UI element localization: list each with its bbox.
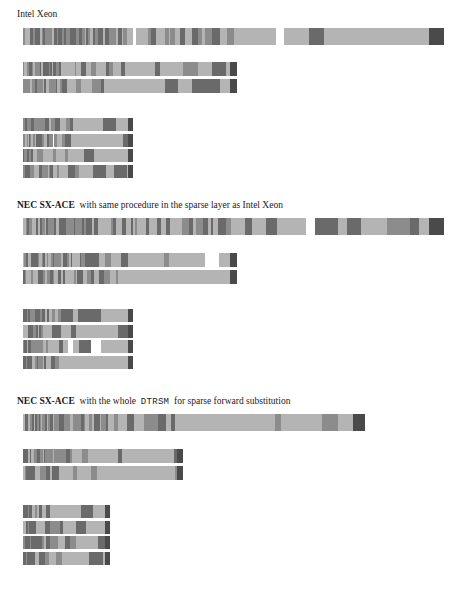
stripe-segment bbox=[117, 79, 124, 93]
stripe-segment bbox=[387, 218, 409, 235]
stripe-segment bbox=[128, 134, 133, 147]
stripe-segment bbox=[133, 62, 142, 76]
stripe-segment bbox=[185, 28, 192, 45]
stripe-segment bbox=[78, 552, 89, 565]
stripe-segment bbox=[148, 466, 167, 480]
stripe-segment bbox=[288, 414, 302, 431]
stripe-segment bbox=[96, 134, 108, 147]
stripe-segment bbox=[93, 505, 105, 518]
stripe-segment bbox=[109, 149, 125, 162]
stripe-segment bbox=[76, 521, 86, 534]
stripe-segment bbox=[86, 521, 101, 534]
stripe-segment bbox=[105, 536, 110, 549]
stripe-segment bbox=[219, 253, 230, 267]
label-text-intel-xeon: Intel Xeon bbox=[17, 9, 57, 19]
stripe-segment bbox=[315, 28, 324, 45]
stripe-segment bbox=[295, 28, 309, 45]
section-label-nec-dtrsm: NEC SX-ACE with the whole DTRSM for spar… bbox=[17, 395, 290, 408]
stripe-segment bbox=[330, 218, 338, 235]
label-text-nec-same-prefix: NEC SX-ACE bbox=[17, 200, 75, 210]
timeline-stripe-bar bbox=[23, 270, 237, 284]
stripe-segment bbox=[230, 253, 237, 267]
stripe-segment bbox=[284, 28, 295, 45]
stripe-segment bbox=[81, 505, 94, 518]
stripe-segment bbox=[176, 253, 190, 267]
stripe-segment bbox=[157, 270, 168, 284]
timeline-stripe-bar bbox=[23, 340, 133, 353]
stripe-segment bbox=[63, 505, 71, 518]
stripe-segment bbox=[338, 414, 353, 431]
timeline-stripe-bar bbox=[23, 466, 183, 480]
stripe-segment bbox=[198, 62, 213, 76]
stripe-segment bbox=[112, 356, 128, 369]
stripe-segment bbox=[81, 356, 88, 369]
stripe-segment bbox=[261, 414, 275, 431]
stripe-segment bbox=[142, 79, 149, 93]
page-root: Intel Xeon NEC SX-ACE with same procedur… bbox=[0, 0, 458, 591]
stripe-segment bbox=[246, 28, 256, 45]
stripe-segment bbox=[266, 28, 276, 45]
label-text-nec-dtrsm-mid: with the whole bbox=[80, 396, 136, 406]
stripe-segment bbox=[128, 325, 133, 338]
stripe-segment bbox=[227, 28, 234, 45]
timeline-stripe-bar bbox=[23, 414, 365, 431]
stripe-segment bbox=[204, 270, 224, 284]
stripe-segment bbox=[353, 414, 365, 431]
stripe-segment bbox=[63, 521, 70, 534]
stripe-segment bbox=[239, 28, 246, 45]
stripe-segment bbox=[363, 28, 370, 45]
stripe-segment bbox=[361, 218, 374, 235]
stripe-segment bbox=[191, 414, 199, 431]
stripe-segment bbox=[93, 309, 102, 322]
stripe-segment bbox=[258, 218, 266, 235]
stripe-segment bbox=[276, 28, 283, 45]
stripe-segment bbox=[105, 552, 110, 565]
stripe-segment bbox=[134, 270, 141, 284]
stripe-segment bbox=[218, 218, 226, 235]
stripe-segment bbox=[113, 466, 122, 480]
label-text-nec-same-rest: with same procedure in the sparse layer … bbox=[80, 200, 283, 210]
stripe-segment bbox=[67, 552, 77, 565]
stripe-segment bbox=[147, 62, 155, 76]
stripe-segment bbox=[118, 270, 125, 284]
stripe-segment bbox=[199, 414, 206, 431]
stripe-segment bbox=[105, 325, 118, 338]
stripe-segment bbox=[134, 449, 149, 463]
stripe-segment bbox=[315, 218, 329, 235]
stripe-segment bbox=[231, 218, 240, 235]
stripe-segment bbox=[215, 414, 225, 431]
timeline-stripe-bar bbox=[23, 325, 133, 338]
stripe-segment bbox=[114, 165, 127, 178]
stripe-segment bbox=[71, 134, 79, 147]
stripe-segment bbox=[106, 466, 113, 480]
stripe-segment bbox=[373, 218, 387, 235]
bar-group-sxace2-four bbox=[0, 0, 458, 1]
stripe-segment bbox=[399, 28, 413, 45]
timeline-stripe-bar bbox=[23, 28, 444, 45]
stripe-segment bbox=[128, 118, 133, 131]
stripe-segment bbox=[169, 253, 176, 267]
stripe-segment bbox=[230, 62, 237, 76]
stripe-segment bbox=[238, 414, 249, 431]
timeline-stripe-bar bbox=[23, 521, 110, 534]
stripe-segment bbox=[89, 552, 103, 565]
stripe-segment bbox=[112, 340, 127, 353]
stripe-segment bbox=[122, 449, 134, 463]
stripe-segment bbox=[177, 449, 183, 463]
stripe-segment bbox=[114, 253, 121, 267]
stripe-segment bbox=[230, 270, 237, 284]
stripe-segment bbox=[429, 28, 444, 45]
stripe-segment bbox=[125, 62, 133, 76]
stripe-segment bbox=[339, 28, 353, 45]
stripe-segment bbox=[166, 449, 173, 463]
stripe-segment bbox=[111, 449, 118, 463]
stripe-segment bbox=[371, 28, 390, 45]
stripe-segment bbox=[106, 165, 114, 178]
stripe-segment bbox=[99, 356, 111, 369]
stripe-segment bbox=[118, 325, 128, 338]
timeline-stripe-bar bbox=[23, 134, 133, 147]
stripe-segment bbox=[94, 149, 101, 162]
stripe-segment bbox=[121, 253, 129, 267]
timeline-stripe-bar bbox=[23, 62, 237, 76]
stripe-segment bbox=[71, 505, 81, 518]
